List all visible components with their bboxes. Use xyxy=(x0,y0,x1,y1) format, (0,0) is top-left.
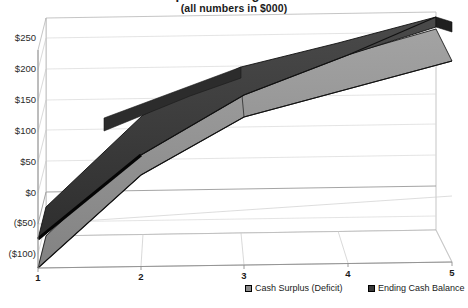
y-tick-label-neg50: ($50) xyxy=(0,218,36,228)
legend-label: Ending Cash Balance xyxy=(378,283,465,294)
legend-item-ending-cash-balance[interactable]: Ending Cash Balance xyxy=(368,283,465,294)
y-tick-label-50: $50 xyxy=(0,157,36,167)
chart-legend: Cash Surplus (Deficit) Ending Cash Balan… xyxy=(0,283,468,299)
x-tick-label-5: 5 xyxy=(443,268,461,278)
y-tick-label-150: $150 xyxy=(0,95,36,105)
plot-area xyxy=(0,0,468,308)
x-tick-label-4: 4 xyxy=(339,269,357,279)
y-tick-label-neg100: ($100) xyxy=(0,249,36,259)
legend-label: Cash Surplus (Deficit) xyxy=(255,283,343,294)
x-tick-label-2: 2 xyxy=(132,272,150,282)
y-tick-label-100: $100 xyxy=(0,126,36,136)
legend-item-cash-surplus[interactable]: Cash Surplus (Deficit) xyxy=(245,283,343,294)
chart-root: Cash Surplus / Ending Cash Balance (all … xyxy=(0,0,468,308)
y-tick-label-0: $0 xyxy=(0,188,36,198)
y-tick-label-200: $200 xyxy=(0,64,36,74)
legend-swatch-icon xyxy=(368,285,375,292)
legend-swatch-icon xyxy=(245,285,252,292)
x-tick-label-3: 3 xyxy=(235,271,253,281)
plot-floor xyxy=(38,230,452,268)
x-tick-label-1: 1 xyxy=(29,273,47,283)
y-tick-label-250: $250 xyxy=(0,33,36,43)
